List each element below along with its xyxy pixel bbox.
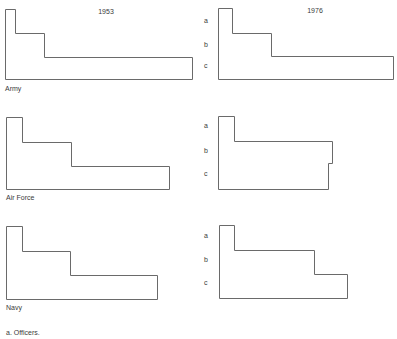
year-header-1953: 1953 [98,8,114,16]
branch-label-army: Army [5,85,21,93]
army-1953-profile [6,10,193,80]
rank-label-b: b [204,147,208,155]
year-header-1976: 1976 [307,7,323,15]
navy-1953-profile [7,227,158,300]
rank-label-b: b [204,256,208,264]
rank-label-a: a [204,122,208,130]
rank-label-b: b [204,41,208,49]
army-1976-profile [219,9,394,80]
branch-label-air-force: Air Force [6,194,34,202]
footnote: a. Officers. [6,329,40,337]
rank-label-a: a [204,232,208,240]
airforce-1953-profile [7,118,170,190]
airforce-1976-profile [219,117,333,190]
rank-label-c: c [204,279,208,287]
rank-label-c: c [204,62,208,70]
rank-label-a: a [204,17,208,25]
rank-profile-figure [0,0,397,339]
rank-label-c: c [204,170,208,178]
branch-label-navy: Navy [6,304,22,312]
navy-1976-profile [220,226,348,299]
